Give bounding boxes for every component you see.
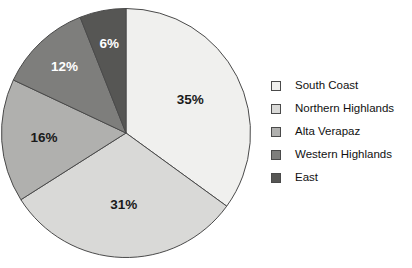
pie-slice-value-label: 31% (110, 197, 137, 212)
legend-item-label: South Coast (295, 80, 358, 92)
legend-item-label: Northern Highlands (295, 103, 394, 115)
legend-swatch-icon (271, 173, 281, 183)
legend-item[interactable]: Alta Verapaz (271, 120, 412, 143)
legend-item-label: Western Highlands (295, 149, 392, 161)
pie-plot-area: 35%31%16%12%6% (0, 0, 256, 268)
legend-swatch-icon (271, 81, 281, 91)
legend-item-label: East (295, 172, 318, 184)
legend-item-label: Alta Verapaz (295, 126, 360, 138)
legend-item[interactable]: Western Highlands (271, 143, 412, 166)
legend-item[interactable]: East (271, 166, 412, 189)
pie-slice-value-label: 16% (30, 130, 57, 145)
chart-legend: South CoastNorthern HighlandsAlta Verapa… (271, 74, 412, 189)
legend-swatch-icon (271, 104, 281, 114)
pie-svg: 35%31%16%12%6% (0, 0, 256, 268)
pie-slice-value-label: 6% (99, 36, 119, 51)
legend-item[interactable]: South Coast (271, 74, 412, 97)
legend-item[interactable]: Northern Highlands (271, 97, 412, 120)
legend-swatch-icon (271, 127, 281, 137)
pie-chart: 35%31%16%12%6% South CoastNorthern Highl… (0, 0, 412, 268)
pie-slice-value-label: 35% (177, 92, 204, 107)
pie-slice-value-label: 12% (51, 59, 78, 74)
legend-swatch-icon (271, 150, 281, 160)
